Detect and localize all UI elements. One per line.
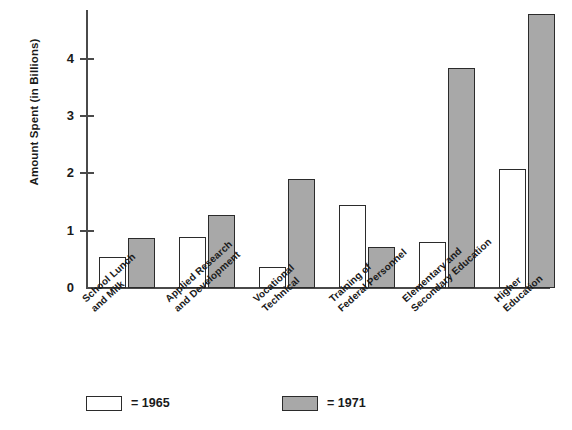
- y-tick-label-text: 0: [52, 281, 74, 294]
- y-tick-label-text: 1: [52, 224, 74, 237]
- y-tick-mark: [80, 115, 94, 117]
- bar-chart-figure: Amount Spent (in Billions) 01234 School …: [0, 0, 572, 430]
- y-axis-line: [86, 10, 88, 289]
- gray-square-swatch: [282, 396, 318, 411]
- y-tick-label: 1: [48, 224, 74, 238]
- y-tick-label-text: 4: [52, 52, 74, 65]
- legend-label: = 1965: [131, 396, 170, 410]
- x-axis-line: [86, 287, 550, 289]
- y-tick-label-text: 2: [52, 166, 74, 179]
- y-tick-label: 3: [48, 109, 74, 123]
- y-tick-label: 4: [48, 52, 74, 66]
- y-tick-mark: [80, 58, 94, 60]
- white-square-swatch: [86, 396, 122, 411]
- legend-label: = 1971: [327, 396, 366, 410]
- legend-item-2[interactable]: = 1971: [282, 392, 366, 414]
- legend-item-1[interactable]: = 1965: [86, 392, 170, 414]
- plot-area: 01234 School Lunchand MilkApplied Resear…: [0, 0, 572, 430]
- y-tick-mark: [80, 172, 94, 174]
- y-tick-label: 2: [48, 166, 74, 180]
- y-tick-label: 0: [48, 281, 74, 295]
- y-tick-label-text: 3: [52, 109, 74, 122]
- chart-legend: = 1965= 1971: [86, 392, 506, 418]
- bar-1971-6: [528, 14, 555, 288]
- y-tick-mark: [80, 230, 94, 232]
